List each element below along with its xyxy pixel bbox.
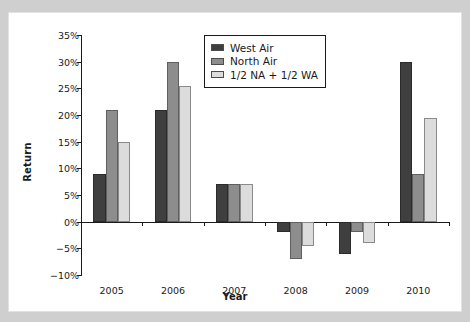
x-tick-mark [449, 222, 450, 226]
y-tick-mark [77, 275, 82, 276]
bar [240, 184, 252, 221]
y-tick-label: −10% [50, 270, 79, 281]
y-axis-label: Return [22, 142, 33, 182]
bar [302, 222, 314, 246]
bar [290, 222, 302, 259]
plot-area: Return Year 35%30%25%20%15%10%5%0%−5%−10… [9, 13, 461, 311]
legend-swatch-icon [211, 71, 224, 78]
bar [339, 222, 351, 254]
bar [106, 110, 118, 222]
bar [424, 118, 436, 222]
bar [216, 184, 228, 221]
bar [155, 110, 167, 222]
bar [400, 62, 412, 222]
y-tick-label: 30% [58, 56, 79, 67]
chart-figure: Return Year 35%30%25%20%15%10%5%0%−5%−10… [8, 12, 462, 312]
y-tick-label: 20% [58, 110, 79, 121]
chart-legend: West AirNorth Air1/2 NA + 1/2 WA [204, 35, 326, 88]
y-axis-line [81, 35, 82, 275]
legend-label: North Air [230, 55, 277, 67]
x-tick-label: 2010 [406, 285, 430, 296]
legend-label: West Air [230, 42, 274, 54]
bar [179, 86, 191, 222]
bar [363, 222, 375, 243]
legend-item: North Air [211, 55, 318, 67]
x-tick-label: 2008 [284, 285, 308, 296]
bar [93, 174, 105, 222]
x-tick-label: 2007 [222, 285, 246, 296]
y-tick-label: −5% [56, 243, 79, 254]
x-tick-label: 2006 [161, 285, 185, 296]
x-tick-label: 2005 [100, 285, 124, 296]
legend-label: 1/2 NA + 1/2 WA [230, 69, 318, 81]
legend-swatch-icon [211, 44, 224, 51]
bar [167, 62, 179, 222]
legend-swatch-icon [211, 58, 224, 65]
bar [118, 142, 130, 222]
legend-item: 1/2 NA + 1/2 WA [211, 69, 318, 81]
y-tick-label: 15% [58, 136, 79, 147]
bar [228, 184, 240, 221]
y-tick-label: 35% [58, 30, 79, 41]
bar [351, 222, 363, 233]
y-tick-label: 10% [58, 163, 79, 174]
zero-baseline [81, 222, 449, 223]
legend-item: West Air [211, 42, 318, 54]
x-tick-label: 2009 [345, 285, 369, 296]
y-tick-label: 25% [58, 83, 79, 94]
bar [277, 222, 289, 233]
bar [412, 174, 424, 222]
